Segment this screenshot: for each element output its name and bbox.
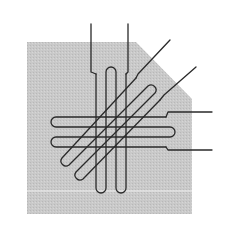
diagram-canvas xyxy=(0,0,231,229)
